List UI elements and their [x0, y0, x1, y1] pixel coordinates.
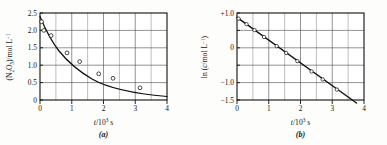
data-point [237, 17, 240, 20]
y-axis-label-b: ln (c/mol L−1) [200, 35, 209, 78]
figure-container: 2.5 2.0 1.5 1.0 0.5 0 0 1 2 3 4 [0, 0, 387, 145]
data-point [253, 28, 256, 31]
data-point [245, 23, 248, 26]
y-axis-label-a: (N2O5)/mol L−1 [5, 33, 15, 81]
data-point [262, 35, 265, 38]
x-tick-label: 2 [299, 104, 303, 113]
y-tick-label: 0 [33, 96, 37, 105]
data-point [111, 76, 115, 80]
x-axis-label-slash: /10 [96, 118, 106, 127]
y-tick-label: 2.5 [28, 9, 38, 18]
y-tick-label: +1.0 [221, 9, 235, 18]
x-tick-label: 0 [235, 104, 239, 113]
x-tick-labels-a: 0 1 2 3 4 [38, 104, 169, 113]
svg-text:t/103 s: t/103 s [94, 117, 113, 127]
x-tick-label: 4 [165, 104, 169, 113]
panel-caption-b: (b) [296, 130, 306, 139]
x-axis-label-a: t/103 s [94, 117, 113, 127]
data-point [42, 29, 46, 33]
x-tick-label: 0 [38, 104, 42, 113]
data-point [97, 72, 101, 76]
x-tick-label: 4 [362, 104, 366, 113]
svg-text:ln (c/mol L−1): ln (c/mol L−1) [200, 35, 209, 78]
x-tick-label: 2 [102, 104, 106, 113]
x-axis-label-b: t/103 s [291, 117, 310, 127]
y-tick-label: 1.5 [28, 43, 38, 52]
y-tick-label: 0.5 [28, 78, 38, 87]
y-tick-label: −1.0 [221, 78, 235, 87]
x-axis-label-unit: s [108, 118, 113, 127]
data-point [78, 60, 82, 64]
y-axis-label-exp: −1 [5, 33, 11, 39]
data-point [275, 44, 278, 47]
x-tick-label: 1 [70, 104, 74, 113]
y-tick-label: 2.0 [28, 26, 38, 35]
chart-panel-a: 2.5 2.0 1.5 1.0 0.5 0 0 1 2 3 4 [0, 0, 193, 145]
data-point [40, 20, 44, 24]
data-point [335, 88, 338, 91]
x-tick-label: 3 [133, 104, 137, 113]
chart-svg-b: +1.0 0 −1.0 −1.5 0 1 2 3 4 [193, 0, 386, 145]
y-axis-label-tail: ) [200, 35, 209, 38]
chart-svg-a: 2.5 2.0 1.5 1.0 0.5 0 0 1 2 3 4 [0, 0, 193, 145]
y-tick-labels-b: +1.0 0 −1.0 −1.5 [221, 9, 235, 105]
data-point [138, 86, 142, 90]
y-tick-label: 0 [230, 43, 234, 52]
svg-text:t/103 s: t/103 s [291, 117, 310, 127]
svg-text:(N2O5)/mol L−1: (N2O5)/mol L−1 [5, 33, 15, 81]
y-tick-label: −1.5 [221, 96, 235, 105]
data-point [310, 70, 313, 73]
x-tick-labels-b: 0 1 2 3 4 [235, 104, 366, 113]
y-axis-label-close: /mol L [200, 44, 209, 65]
data-point [296, 59, 299, 62]
x-axis-label-unit: s [305, 118, 310, 127]
x-tick-label: 1 [267, 104, 271, 113]
data-point [49, 34, 53, 38]
y-axis-label-close: )/mol L [5, 39, 14, 62]
y-axis-label-open: ln ( [200, 67, 209, 78]
data-point [65, 51, 69, 55]
plot-grid-a [40, 13, 167, 100]
x-axis-label-slash: /10 [293, 118, 303, 127]
y-tick-labels-a: 2.5 2.0 1.5 1.0 0.5 0 [28, 9, 38, 105]
plot-grid-b [237, 13, 364, 100]
y-tick-label: 1.0 [28, 61, 38, 70]
panel-caption-a: (a) [99, 130, 109, 139]
x-tick-label: 3 [330, 104, 334, 113]
data-point [321, 78, 324, 81]
chart-panel-b: +1.0 0 −1.0 −1.5 0 1 2 3 4 [193, 0, 386, 145]
data-point [285, 51, 288, 54]
